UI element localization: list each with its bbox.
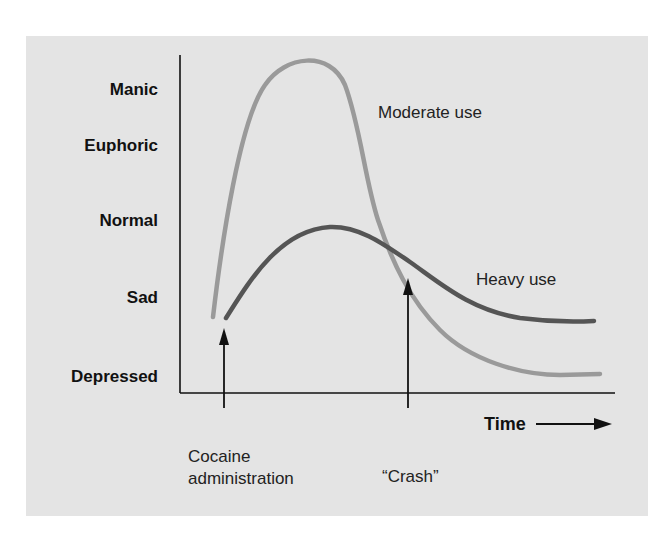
y-label-euphoric: Euphoric xyxy=(18,136,158,156)
y-label-depressed: Depressed xyxy=(18,367,158,387)
time-arrowhead-icon xyxy=(594,418,612,430)
y-label-normal: Normal xyxy=(18,211,158,231)
cocaine-label-line1: Cocaine xyxy=(188,447,250,467)
y-label-sad: Sad xyxy=(18,288,158,308)
crash-label: “Crash” xyxy=(382,467,439,487)
moderate-use-label: Moderate use xyxy=(378,103,482,123)
y-label-manic: Manic xyxy=(18,80,158,100)
cocaine-arrowhead-icon xyxy=(219,328,229,345)
cocaine-label-line2: administration xyxy=(188,469,294,489)
heavy-use-label: Heavy use xyxy=(476,270,556,290)
time-axis-label: Time xyxy=(484,414,526,434)
